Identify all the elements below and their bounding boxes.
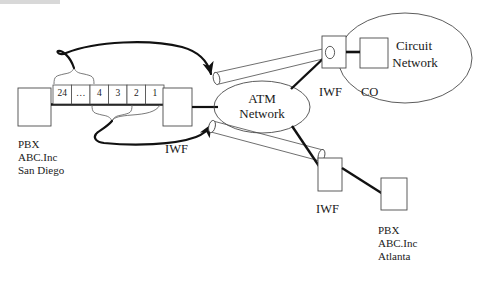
site-left-line1: PBX [18, 138, 64, 151]
channel-cell-3: 3 [109, 88, 128, 98]
iwf-left-box [163, 88, 192, 126]
pbx-right-box [381, 178, 407, 210]
vc-arrow-upper [57, 42, 211, 74]
site-left-line3: San Diego [18, 164, 64, 177]
atm-network-label-line1: ATM [232, 91, 292, 106]
channel-cell-1: 1 [146, 88, 165, 98]
site-left-annotation: PBX ABC.Inc San Diego [18, 138, 64, 177]
pbx-left-box [18, 88, 51, 126]
co-label: CO [361, 85, 378, 100]
vc-arrow-lower [95, 121, 211, 145]
brace-lower [92, 105, 132, 121]
iwf-left-label: IWF [165, 142, 188, 157]
site-right-line2: ABC.Inc [378, 237, 417, 250]
site-right-line1: PBX [378, 224, 417, 237]
brace-upper [54, 68, 94, 84]
circuit-network-label-line2: Network [376, 55, 454, 70]
site-right-annotation: PBX ABC.Inc Atlanta [378, 224, 417, 263]
site-left-line2: ABC.Inc [18, 151, 64, 164]
channel-cell-2: 2 [127, 88, 146, 98]
site-right-line3: Atlanta [378, 250, 417, 263]
brace-lower-right [112, 105, 160, 121]
circuit-network-label-line1: Circuit [378, 38, 450, 53]
iwf-bottom-box [318, 158, 342, 191]
channel-cell-4: 4 [90, 88, 109, 98]
channel-cell-ellipsis: … [72, 88, 91, 98]
iwf-top-label: IWF [319, 85, 342, 100]
diagram-canvas: 24 … 4 3 2 1 ATM Network Circuit Network… [0, 0, 488, 282]
atm-network-label-line2: Network [226, 106, 298, 121]
link-iwf-bottom-to-pbx-right [342, 168, 383, 194]
iwf-top-port-cylinder [325, 46, 334, 58]
channel-cell-24: 24 [53, 88, 72, 98]
iwf-bottom-label: IWF [316, 202, 339, 217]
